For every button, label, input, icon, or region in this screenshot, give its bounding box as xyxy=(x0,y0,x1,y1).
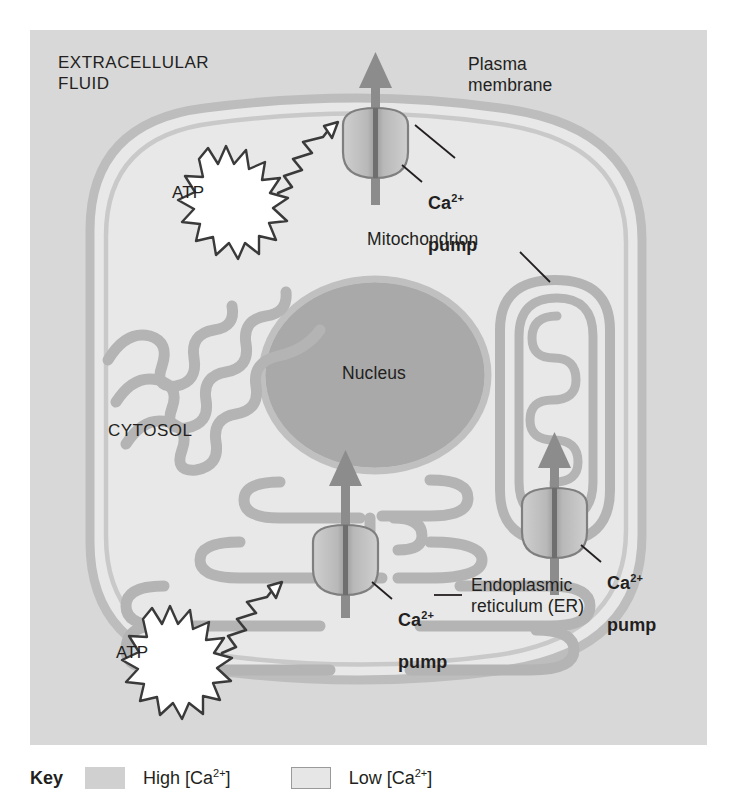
pump-ion-charge: 2+ xyxy=(630,572,643,584)
atp-plasma-label: ATP xyxy=(172,182,204,203)
legend-swatch-high xyxy=(85,767,125,789)
plasma-membrane-label: Plasma membrane xyxy=(468,54,552,96)
legend-low-charge: 2+ xyxy=(415,767,428,779)
plasma-membrane-pump-label: Ca2+ pump xyxy=(428,172,477,256)
legend-low-prefix: Low [Ca xyxy=(349,768,415,788)
pump-ion-name: Ca xyxy=(398,610,421,630)
extracellular-fluid-label: EXTRACELLULAR FLUID xyxy=(58,52,209,94)
cytosol-label: CYTOSOL xyxy=(108,420,192,441)
legend-high-charge: 2+ xyxy=(213,767,226,779)
figure-page: EXTRACELLULAR FLUID CYTOSOL Nucleus Plas… xyxy=(0,0,737,802)
pump-word: pump xyxy=(398,652,447,672)
nucleus-label: Nucleus xyxy=(342,363,406,384)
mitochondrial-pump-label: Ca2+ pump xyxy=(607,552,656,636)
legend-high-suffix: ] xyxy=(226,768,231,788)
legend-high-prefix: High [Ca xyxy=(143,768,213,788)
pump-ion-charge: 2+ xyxy=(451,192,464,204)
legend-swatch-low xyxy=(291,767,331,789)
pump-ion-name: Ca xyxy=(607,573,630,593)
legend-title: Key xyxy=(30,768,63,789)
cell-illustration xyxy=(30,30,707,745)
legend: Key High [Ca2+] Low [Ca2+] xyxy=(30,762,492,794)
pump-ion-name: Ca xyxy=(428,193,451,213)
er-pump-label: Ca2+ pump xyxy=(398,589,447,673)
plasma-membrane-pump-body xyxy=(343,108,408,178)
pump-word: pump xyxy=(607,615,656,635)
legend-label-high: High [Ca2+] xyxy=(143,768,231,789)
atp-er-label: ATP xyxy=(116,642,148,663)
pump-word: pump xyxy=(428,235,477,255)
er-pump-body xyxy=(313,525,378,595)
legend-label-low: Low [Ca2+] xyxy=(349,768,433,789)
mitochondrial-pump-body xyxy=(522,488,587,558)
cell-diagram-canvas: EXTRACELLULAR FLUID CYTOSOL Nucleus Plas… xyxy=(30,30,707,745)
legend-low-suffix: ] xyxy=(427,768,432,788)
endoplasmic-reticulum-label: Endoplasmic reticulum (ER) xyxy=(471,575,584,617)
pump-ion-charge: 2+ xyxy=(421,609,434,621)
